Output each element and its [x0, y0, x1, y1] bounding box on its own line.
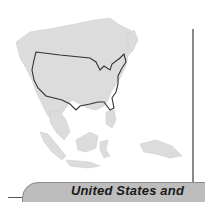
philippines-landmass	[106, 110, 116, 128]
borneo-landmass	[76, 132, 98, 152]
japan-landmass	[128, 30, 138, 52]
new-guinea-landmass	[140, 140, 182, 158]
sulawesi-landmass	[100, 140, 110, 158]
asia-landmass	[16, 18, 136, 120]
vertical-rule	[192, 29, 194, 183]
java-landmass	[66, 160, 100, 168]
indochina-landmass	[50, 110, 70, 140]
asia-map	[0, 0, 205, 180]
caption-tab-label: United States and	[40, 183, 205, 198]
